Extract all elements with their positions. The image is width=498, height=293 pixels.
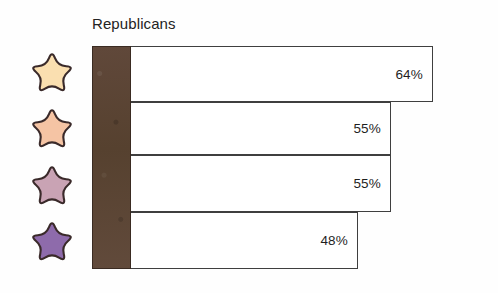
chart-title: Republicans (92, 15, 176, 32)
bar-value-label: 64% (395, 67, 432, 82)
bar-1: 64% (131, 46, 433, 102)
bar-2: 55% (131, 102, 391, 155)
bar-row: 64% (131, 46, 471, 102)
star-icon-peach (25, 104, 79, 156)
bar-value-label: 48% (320, 233, 357, 248)
bar-chart: Republicans 64%55%55%48% (0, 0, 498, 293)
category-axis-band (92, 46, 131, 269)
legend-icon-column (22, 46, 84, 270)
bars-plot-area: 64%55%55%48% (131, 46, 471, 269)
star-icon-mauve (25, 161, 79, 213)
bar-row: 55% (131, 155, 471, 212)
legend-item-1 (22, 46, 82, 102)
legend-item-2 (22, 102, 82, 158)
bar-3: 55% (131, 155, 391, 212)
bar-row: 55% (131, 102, 471, 155)
bar-value-label: 55% (353, 176, 390, 191)
star-icon-purple (25, 217, 79, 269)
star-icon-cream (25, 48, 79, 100)
legend-item-4 (22, 215, 82, 271)
legend-item-3 (22, 159, 82, 215)
bar-value-label: 55% (353, 121, 390, 136)
bar-4: 48% (131, 212, 358, 269)
bar-row: 48% (131, 212, 471, 269)
